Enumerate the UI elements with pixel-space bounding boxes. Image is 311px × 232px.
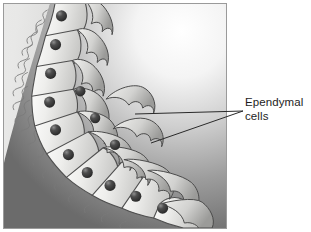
label-line-1: Ependymal	[245, 96, 311, 110]
label-line-2: cells	[245, 110, 311, 124]
ependymal-cells-label: Ependymal cells	[245, 96, 311, 123]
nucleus	[157, 203, 168, 214]
nucleus	[50, 124, 61, 135]
nucleus	[56, 10, 67, 21]
nucleus	[75, 86, 85, 96]
figure-root: Ependymal cells	[0, 0, 311, 232]
nucleus	[45, 68, 56, 79]
nucleus	[82, 167, 93, 178]
nucleus	[50, 39, 61, 50]
nucleus	[63, 149, 74, 160]
ependymal-cell-illustration	[4, 4, 226, 228]
nucleus	[130, 191, 141, 202]
nucleus	[110, 140, 120, 150]
nucleus	[44, 97, 55, 108]
illustration-panel	[3, 3, 227, 229]
nucleus	[90, 113, 100, 123]
nucleus	[104, 180, 115, 191]
